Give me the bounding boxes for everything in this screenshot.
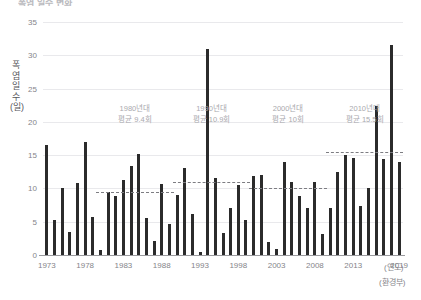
bar-1976 bbox=[68, 232, 71, 255]
y-axis-title: 폭염 일수(일) bbox=[10, 60, 22, 113]
bar-1996 bbox=[222, 233, 225, 255]
y-tick-label-15: 15 bbox=[28, 151, 37, 160]
bar-1990 bbox=[176, 195, 179, 255]
decade-1980s-average-label: 평균 9.4회 bbox=[118, 115, 152, 126]
x-tick-label-1978: 1978 bbox=[76, 261, 94, 270]
x-tick-label-2008: 2008 bbox=[306, 261, 324, 270]
bar-1983 bbox=[122, 180, 125, 255]
bar-1998 bbox=[237, 185, 240, 255]
decade-2000s-decade-label: 2000년대 bbox=[272, 104, 303, 115]
bar-2005 bbox=[290, 182, 293, 255]
bar-2001 bbox=[260, 175, 263, 255]
decade-2010s-decade-label: 2010년대 bbox=[346, 104, 384, 115]
x-tick-label-2003: 2003 bbox=[268, 261, 286, 270]
avg-line-1980s bbox=[96, 192, 173, 193]
bar-2007 bbox=[306, 208, 309, 255]
decade-2010s-average-label: 평균 15.5회 bbox=[346, 115, 384, 126]
bar-1999 bbox=[244, 220, 247, 255]
bar-2010 bbox=[329, 208, 332, 255]
decade-2000s-average-label: 평균 10회 bbox=[272, 115, 303, 126]
y-tick-label-10: 10 bbox=[28, 184, 37, 193]
bar-2017 bbox=[382, 159, 385, 255]
y-tick-label-35: 35 bbox=[28, 18, 37, 27]
bar-2006 bbox=[298, 196, 301, 255]
x-axis-unit-label: (연도) bbox=[384, 261, 403, 272]
decade-1990s: 1990년대평균 10.9회 bbox=[193, 104, 231, 126]
y-tick-label-20: 20 bbox=[28, 117, 37, 126]
bar-2014 bbox=[359, 206, 362, 255]
bar-1989 bbox=[168, 224, 171, 255]
decade-1980s-decade-label: 1980년대 bbox=[118, 104, 152, 115]
gridline-10: 10 bbox=[43, 188, 403, 189]
x-tick-label-1998: 1998 bbox=[229, 261, 247, 270]
y-tick-label-25: 25 bbox=[28, 84, 37, 93]
bar-2009 bbox=[321, 234, 324, 255]
bar-2019 bbox=[398, 162, 401, 255]
bar-1985 bbox=[137, 154, 140, 255]
plot-area: 05101520253035 1973197819831988199319982… bbox=[43, 22, 403, 255]
decade-1990s-average-label: 평균 10.9회 bbox=[193, 115, 231, 126]
bar-1982 bbox=[114, 196, 117, 255]
bar-1977 bbox=[76, 183, 79, 255]
avg-line-1990s bbox=[173, 182, 250, 183]
bar-2013 bbox=[352, 158, 355, 255]
bar-1986 bbox=[145, 218, 148, 255]
avg-line-2010s bbox=[326, 152, 403, 153]
bar-1978 bbox=[84, 142, 87, 255]
decade-1990s-decade-label: 1990년대 bbox=[193, 104, 231, 115]
y-tick-label-5: 5 bbox=[33, 217, 37, 226]
bar-1984 bbox=[130, 166, 133, 255]
x-tick-label-1973: 1973 bbox=[38, 261, 56, 270]
gridline-25: 25 bbox=[43, 89, 403, 90]
bar-2012 bbox=[344, 155, 347, 255]
avg-line-2000s bbox=[249, 188, 326, 189]
y-tick-label-0: 0 bbox=[33, 251, 37, 260]
source-label: (환경부) bbox=[379, 276, 405, 287]
bar-1974 bbox=[53, 220, 56, 255]
bar-1975 bbox=[61, 188, 64, 255]
bar-1973 bbox=[45, 145, 48, 255]
bar-2002 bbox=[267, 242, 270, 255]
gridline-15: 15 bbox=[43, 155, 403, 156]
gridline-30: 30 bbox=[43, 55, 403, 56]
bar-1981 bbox=[107, 192, 110, 255]
bar-1995 bbox=[214, 178, 217, 255]
bar-1997 bbox=[229, 208, 232, 255]
x-tick-label-1988: 1988 bbox=[153, 261, 171, 270]
decade-1980s: 1980년대평균 9.4회 bbox=[118, 104, 152, 126]
decade-2000s: 2000년대평균 10회 bbox=[272, 104, 303, 126]
bar-1987 bbox=[153, 241, 156, 255]
bar-1979 bbox=[91, 217, 94, 255]
bar-2016 bbox=[375, 106, 378, 255]
x-tick-label-1993: 1993 bbox=[191, 261, 209, 270]
bar-2018 bbox=[390, 45, 393, 255]
bar-1994 bbox=[206, 49, 209, 255]
page-title: 폭염 일수 변화 bbox=[18, 0, 73, 6]
bar-2011 bbox=[336, 172, 339, 255]
chart-page: 폭염 일수 변화 폭염 일수(일) 05101520253035 1973197… bbox=[0, 0, 421, 300]
x-tick-label-2013: 2013 bbox=[344, 261, 362, 270]
gridline-35: 35 bbox=[43, 22, 403, 23]
x-tick-label-1983: 1983 bbox=[115, 261, 133, 270]
x-axis-line bbox=[39, 255, 405, 256]
bar-1992 bbox=[191, 214, 194, 255]
bar-2008 bbox=[313, 182, 316, 255]
bar-1988 bbox=[160, 184, 163, 255]
bar-2015 bbox=[367, 188, 370, 255]
decade-2010s: 2010년대평균 15.5회 bbox=[346, 104, 384, 126]
gridline-5: 5 bbox=[43, 222, 403, 223]
y-tick-label-30: 30 bbox=[28, 51, 37, 60]
bar-2004 bbox=[283, 162, 286, 255]
